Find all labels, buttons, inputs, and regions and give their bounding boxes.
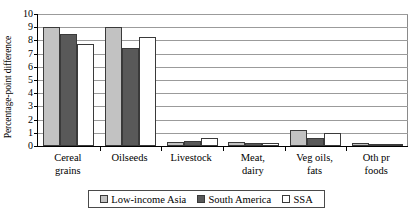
bar-chart-figure: Percentage-point difference 109876543210…: [0, 0, 413, 221]
y-axis-title: Percentage-point difference: [0, 14, 16, 160]
y-axis-tick-label: 7: [28, 49, 33, 59]
bar: [167, 142, 184, 146]
x-axis-category-label-line: [160, 165, 222, 178]
x-axis-tickmark: [100, 146, 101, 151]
y-axis-tick-label: 3: [28, 101, 33, 111]
legend-item[interactable]: Low-income Asia: [100, 194, 186, 205]
y-axis-tick-label: 0: [28, 141, 33, 151]
legend-item-label: South America: [208, 194, 271, 205]
legend-swatch-icon: [282, 195, 290, 203]
x-axis-category-label-line: Cereal: [37, 152, 99, 165]
legend-item[interactable]: SSA: [282, 194, 312, 205]
x-axis-category-label-line: Oilseeds: [99, 152, 161, 165]
bar: [77, 44, 94, 146]
bar: [369, 144, 386, 146]
plot-area: [37, 14, 408, 147]
bar-groups: [38, 14, 408, 146]
y-axis-tick-label: 8: [28, 35, 33, 45]
x-axis-category-label-line: dairy: [222, 165, 284, 178]
x-axis-tickmark: [285, 146, 286, 151]
bar: [201, 138, 218, 146]
bar: [324, 133, 341, 146]
bar: [352, 143, 369, 146]
y-axis-tickmark: [34, 146, 38, 147]
legend-swatch-icon: [197, 195, 205, 203]
bar: [139, 37, 156, 146]
bar: [184, 141, 201, 146]
legend-item[interactable]: South America: [197, 194, 271, 205]
x-axis-category-label: Oilseeds: [99, 152, 161, 184]
x-axis-tickmark: [346, 146, 347, 151]
x-axis-category-label-line: foods: [345, 165, 407, 178]
bar: [228, 142, 245, 146]
x-axis-category-label-line: [99, 165, 161, 178]
x-axis-tickmark: [223, 146, 224, 151]
x-axis-tickmark: [161, 146, 162, 151]
x-axis-category-label-line: Veg oils,: [284, 152, 346, 165]
bar: [386, 144, 403, 146]
bar-group: [346, 14, 408, 146]
x-axis-category-label: Livestock: [160, 152, 222, 184]
bar: [245, 143, 262, 146]
bar: [122, 48, 139, 146]
y-axis-tick-label: 6: [28, 62, 33, 72]
x-axis-category-label: Oth prfoods: [345, 152, 407, 184]
bar-group: [100, 14, 162, 146]
y-axis-tick-label: 10: [23, 9, 33, 19]
bar: [43, 27, 60, 146]
x-axis-category-label-line: fats: [284, 165, 346, 178]
bar-group: [38, 14, 100, 146]
bar-group: [285, 14, 347, 146]
y-axis-title-text: Percentage-point difference: [3, 36, 13, 138]
bar-group: [223, 14, 285, 146]
x-axis-category-label-line: Livestock: [160, 152, 222, 165]
y-axis-tick-label: 2: [28, 115, 33, 125]
x-axis-category-label-line: Oth pr: [345, 152, 407, 165]
bar-group: [161, 14, 223, 146]
chart-legend: Low-income AsiaSouth AmericaSSA: [88, 190, 325, 208]
x-axis-category-labels: CerealgrainsOilseeds Livestock Meat,dair…: [37, 152, 407, 184]
x-axis-category-label-line: grains: [37, 165, 99, 178]
legend-item-label: Low-income Asia: [111, 194, 186, 205]
y-axis-tick-label: 1: [28, 128, 33, 138]
bar: [290, 130, 307, 147]
legend-item-label: SSA: [293, 194, 312, 205]
x-axis-category-label: Veg oils,fats: [284, 152, 346, 184]
x-axis-category-label: Meat,dairy: [222, 152, 284, 184]
y-axis-tick-label: 4: [28, 88, 33, 98]
legend-swatch-icon: [100, 195, 108, 203]
x-axis-category-label: Cerealgrains: [37, 152, 99, 184]
y-axis-tick-label: 9: [28, 22, 33, 32]
x-axis-category-label-line: Meat,: [222, 152, 284, 165]
y-axis-tick-labels: 109876543210: [16, 14, 34, 146]
bar: [105, 27, 122, 146]
y-axis-tick-label: 5: [28, 75, 33, 85]
bar: [262, 143, 279, 146]
bar: [60, 34, 77, 146]
bar: [307, 138, 324, 146]
